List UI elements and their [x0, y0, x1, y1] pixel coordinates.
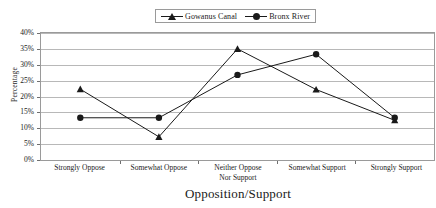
- series-gowanus-canal: [77, 45, 399, 140]
- x-tick-label: Somewhat Support: [278, 163, 357, 187]
- x-tick-label: Strongly Oppose: [40, 163, 119, 187]
- x-tick-label: Strongly Support: [357, 163, 436, 187]
- line-chart: Gowanus Canal Bronx River Percentage 40%…: [0, 0, 436, 208]
- x-tick-label: Somewhat Oppose: [119, 163, 198, 187]
- series-bronx-river: [77, 51, 398, 121]
- x-tick-label: Neither OpposeNor Support: [198, 163, 277, 187]
- x-axis-title: Opposition/Support: [40, 186, 436, 202]
- x-axis-tick-labels: Strongly OpposeSomewhat OpposeNeither Op…: [40, 163, 436, 187]
